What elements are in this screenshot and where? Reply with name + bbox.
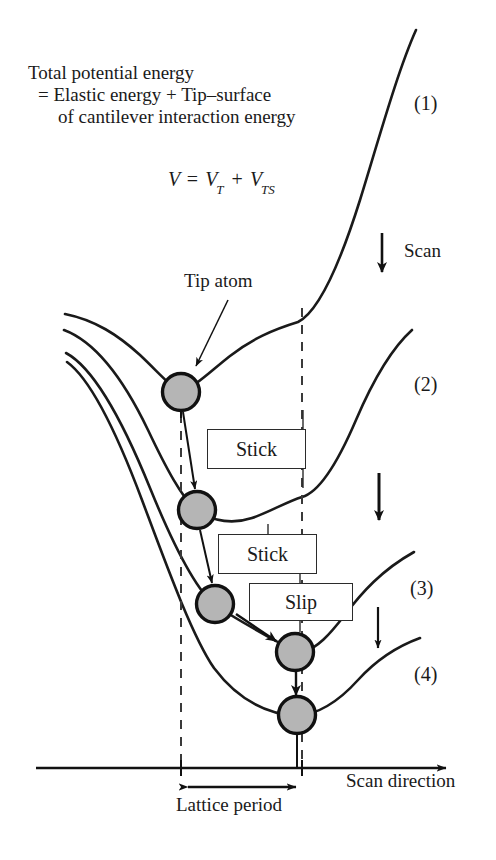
tip-atom-step-2	[179, 492, 216, 529]
tip-atom-pointer	[196, 300, 228, 366]
tip-atom-step-5	[279, 697, 316, 734]
transition-arrow-1-2	[183, 412, 195, 489]
curve-label-3: (3)	[410, 577, 433, 601]
state-box-stick-2: Stick	[218, 534, 317, 574]
equation-term2-sub: TS	[261, 182, 275, 197]
state-box-stick-1: Stick	[207, 429, 306, 469]
lattice-period-label: Lattice period	[176, 794, 282, 816]
transition-arrow-2-3	[200, 530, 212, 583]
figure-canvas: Total potential energy = Elastic energy …	[0, 0, 496, 860]
tip-atom-step-4	[277, 634, 314, 671]
caption-line-2: = Elastic energy + Tip–surface	[38, 84, 296, 106]
scan-label: Scan	[404, 240, 441, 262]
tip-atom-label: Tip atom	[184, 270, 252, 292]
caption-line-3: of cantilever interaction energy	[58, 106, 296, 128]
equation-plus: +	[230, 168, 245, 190]
tip-atom-step-1	[163, 374, 200, 411]
tip-atom-step-3	[197, 586, 234, 623]
equation-equals: =	[185, 168, 200, 190]
state-box-slip: Slip	[249, 583, 353, 621]
potential-energy-equation: V = VT + VTS	[168, 168, 276, 194]
scan-direction-label: Scan direction	[346, 770, 455, 792]
potential-curve-3	[66, 353, 414, 654]
equation-term1-sub: T	[216, 182, 223, 197]
curve-label-1: (1)	[414, 92, 437, 116]
curve-label-2: (2)	[414, 373, 437, 397]
curve-label-4: (4)	[414, 663, 437, 687]
caption-line-1: Total potential energy	[28, 62, 296, 84]
caption-block: Total potential energy = Elastic energy …	[24, 62, 296, 128]
potential-curve-2	[64, 330, 412, 521]
equation-lhs: V	[168, 168, 180, 190]
